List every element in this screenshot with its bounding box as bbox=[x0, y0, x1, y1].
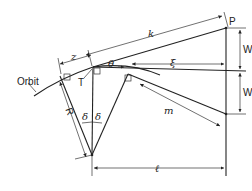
orbit-geometry-diagram: Orbit z k P W W θ ξ T R δ δ m ℓ bbox=[0, 0, 252, 191]
label-W-upper: W bbox=[243, 44, 252, 55]
label-P: P bbox=[229, 16, 236, 27]
m-dimension bbox=[140, 84, 220, 126]
label-xi: ξ bbox=[170, 57, 176, 68]
label-delta-left: δ bbox=[82, 111, 88, 122]
label-R: R bbox=[63, 106, 76, 117]
label-z: z bbox=[70, 51, 77, 62]
z-ext-left bbox=[58, 58, 61, 74]
R-ext bbox=[75, 155, 92, 159]
label-theta: θ bbox=[108, 58, 114, 69]
right-angle-T bbox=[94, 68, 100, 74]
label-delta-right: δ bbox=[95, 111, 101, 122]
label-m: m bbox=[164, 105, 173, 116]
label-orbit: Orbit bbox=[17, 76, 39, 87]
orbit-arc bbox=[34, 66, 160, 96]
z-ext-right bbox=[88, 50, 92, 66]
line-m bbox=[128, 74, 226, 114]
T-leader bbox=[84, 69, 92, 78]
label-W-lower: W bbox=[243, 87, 252, 98]
point-P bbox=[225, 27, 228, 30]
centre-point bbox=[91, 154, 94, 157]
radius-center-line bbox=[92, 67, 93, 155]
label-k: k bbox=[148, 28, 154, 39]
label-l: ℓ bbox=[155, 163, 159, 174]
k-ext-P bbox=[224, 12, 228, 27]
point-m-end bbox=[225, 113, 228, 116]
label-T: T bbox=[78, 77, 84, 88]
